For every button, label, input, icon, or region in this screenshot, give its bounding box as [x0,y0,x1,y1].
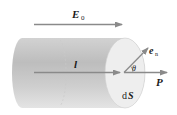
polarization-label: P [156,76,163,88]
angle-label: θ [132,64,136,73]
normal-label: e [149,45,154,56]
field-label: E [71,8,79,20]
cylinder-polarization-diagram: E 0 l e n θ P d S [0,0,177,115]
area-d-label: d [122,90,127,101]
area-label: S [128,90,134,101]
normal-subscript: n [155,51,158,57]
field-subscript: 0 [81,14,85,22]
